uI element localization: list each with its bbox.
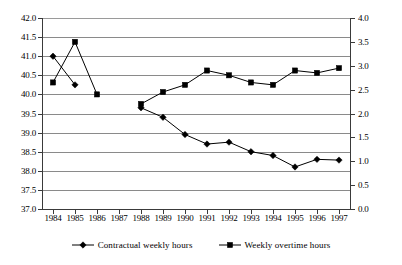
- dual-axis-line-chart: 37.037.538.038.539.039.540.040.541.041.5…: [0, 0, 402, 265]
- left-axis-tick: [38, 18, 42, 19]
- right-axis-tick-label: 2.5: [358, 86, 388, 95]
- gridline: [42, 114, 350, 115]
- left-axis-tick: [38, 171, 42, 172]
- left-axis-tick-label: 39.5: [4, 110, 36, 119]
- gridline: [42, 94, 350, 95]
- right-axis-tick: [351, 137, 355, 138]
- legend-item-contractual[interactable]: Contractual weekly hours: [72, 240, 193, 250]
- gridline: [42, 18, 350, 19]
- left-axis-tick-label: 39.0: [4, 129, 36, 138]
- gridline: [42, 37, 350, 38]
- right-axis-tick-label: 3.5: [358, 38, 388, 47]
- plot-area: [42, 18, 350, 209]
- left-axis-tick-label: 40.0: [4, 90, 36, 99]
- gridline: [42, 75, 350, 76]
- left-axis-line: [42, 18, 43, 210]
- gridline: [42, 152, 350, 153]
- right-axis-tick-label: 1.5: [358, 133, 388, 142]
- right-axis-tick: [351, 18, 355, 19]
- left-axis-tick-label: 42.0: [4, 14, 36, 23]
- gridline: [42, 56, 350, 57]
- right-axis-tick-label: 3.0: [358, 62, 388, 71]
- left-axis-tick-label: 40.5: [4, 71, 36, 80]
- chart-legend: Contractual weekly hoursWeekly overtime …: [0, 240, 402, 250]
- left-axis-tick: [38, 56, 42, 57]
- left-axis-tick: [38, 114, 42, 115]
- diamond-marker: [72, 240, 94, 250]
- right-axis-tick: [351, 161, 355, 162]
- right-axis-tick-label: 0.0: [358, 205, 388, 214]
- left-axis-tick-label: 38.0: [4, 167, 36, 176]
- x-axis-tick-label: 1997: [324, 214, 354, 223]
- gridline: [42, 171, 350, 172]
- right-axis-tick: [351, 42, 355, 43]
- right-axis-tick: [351, 185, 355, 186]
- left-axis-tick-label: 41.5: [4, 33, 36, 42]
- right-axis-tick: [351, 90, 355, 91]
- legend-item-overtime[interactable]: Weekly overtime hours: [219, 240, 331, 250]
- x-axis-line: [42, 209, 351, 210]
- diamond-marker: [79, 242, 85, 248]
- right-axis-tick-label: 1.0: [358, 157, 388, 166]
- left-axis-tick: [38, 94, 42, 95]
- left-axis-tick: [38, 190, 42, 191]
- square-marker: [219, 240, 241, 250]
- legend-label: Contractual weekly hours: [98, 240, 193, 250]
- legend-label: Weekly overtime hours: [245, 240, 331, 250]
- gridlines: [42, 18, 350, 209]
- left-axis-tick: [38, 75, 42, 76]
- left-axis-tick-label: 41.0: [4, 52, 36, 61]
- gridline: [42, 190, 350, 191]
- right-axis-tick-label: 2.0: [358, 110, 388, 119]
- right-axis-tick: [351, 114, 355, 115]
- right-axis-tick: [351, 209, 355, 210]
- left-axis-tick: [38, 152, 42, 153]
- square-marker: [227, 242, 232, 247]
- left-axis-tick: [38, 37, 42, 38]
- left-axis-tick-label: 38.5: [4, 148, 36, 157]
- right-axis-tick: [351, 66, 355, 67]
- gridline: [42, 133, 350, 134]
- left-axis-tick-label: 37.0: [4, 205, 36, 214]
- right-axis-tick-label: 0.5: [358, 181, 388, 190]
- left-axis-tick: [38, 133, 42, 134]
- right-axis-tick-label: 4.0: [358, 14, 388, 23]
- left-axis-tick-label: 37.5: [4, 186, 36, 195]
- left-axis-tick: [38, 209, 42, 210]
